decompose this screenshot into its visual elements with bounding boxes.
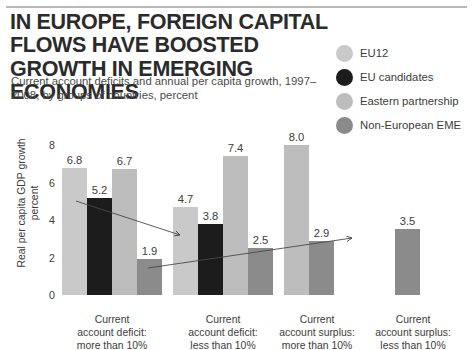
y-tick-6: 6 <box>49 177 55 189</box>
cat-line: Current <box>57 313 167 326</box>
bar-value-label: 8.0 <box>289 131 305 143</box>
legend-swatch-icon <box>336 117 353 134</box>
y-tick-8: 8 <box>49 139 55 151</box>
declining-trend-arrow <box>76 201 180 235</box>
cat-line: Current <box>358 313 468 326</box>
legend-item-eu12: EU12 <box>336 41 473 65</box>
legend-label: EU candidates <box>360 71 433 83</box>
plot-area: 0 2 4 6 8 6.8 5.2 6.7 1.9 4.7 3. <box>62 145 462 295</box>
bar-chart: Real per capita GDP growth percent 0 2 4… <box>0 132 473 350</box>
header-divider <box>6 6 467 8</box>
trend-arrow-annotations <box>62 145 462 295</box>
rising-trend-arrow <box>148 238 352 268</box>
chart-legend: EU12 EU candidates Eastern partnership N… <box>336 41 473 137</box>
cat-line: less than 10% <box>358 339 468 350</box>
y-tick-0: 0 <box>49 289 55 301</box>
legend-label: Eastern partnership <box>360 95 459 107</box>
x-category-label: Current account surplus: less than 10% <box>358 313 468 350</box>
legend-swatch-icon <box>336 93 353 110</box>
cat-line: more than 10% <box>57 339 167 350</box>
legend-item-eu-candidates: EU candidates <box>336 65 473 89</box>
legend-label: Non-European EME <box>360 119 461 131</box>
cat-line: account surplus: <box>358 326 468 339</box>
legend-label: EU12 <box>360 47 388 59</box>
chart-subtitle: Current account deficits and annual per … <box>11 74 331 102</box>
legend-swatch-icon <box>336 45 353 62</box>
cat-line: account surplus: <box>262 326 372 339</box>
legend-item-eastern-partnership: Eastern partnership <box>336 89 473 113</box>
legend-swatch-icon <box>336 69 353 86</box>
x-category-label: Current account deficit: more than 10% <box>57 313 167 350</box>
cat-line: account deficit: <box>57 326 167 339</box>
y-tick-4: 4 <box>49 214 55 226</box>
y-axis-label: Real per capita GDP growth percent <box>15 128 41 278</box>
y-tick-2: 2 <box>49 252 55 264</box>
x-category-label: Current account surplus: more than 10% <box>262 313 372 350</box>
cat-line: Current <box>262 313 372 326</box>
cat-line: more than 10% <box>262 339 372 350</box>
